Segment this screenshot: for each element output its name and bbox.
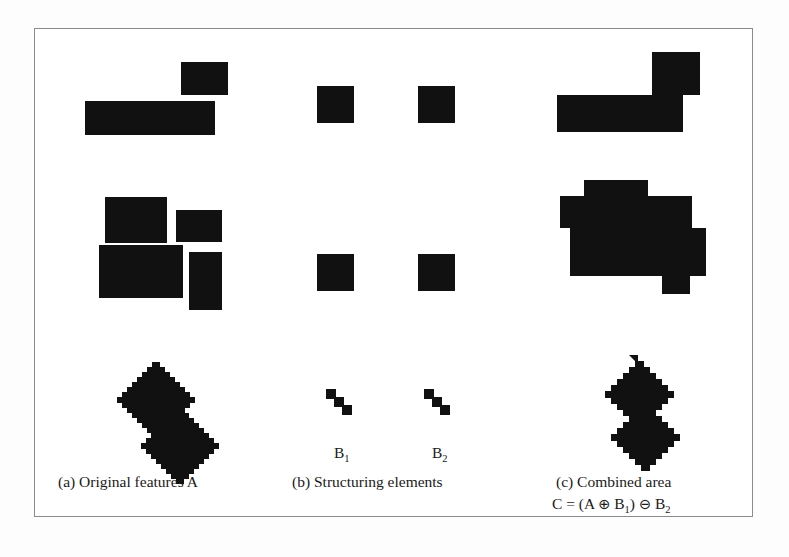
caption-panel-c-formula: C = (A ⊕ B1) ⊖ B2 <box>552 494 671 516</box>
formula-mid: B <box>610 495 624 512</box>
formula-b2-subscript: 2 <box>665 504 670 515</box>
panel-b-shapes <box>317 86 455 415</box>
figure-container: B1 B2 (a) Original features A (b) Struct… <box>0 0 789 557</box>
combined-L-shape <box>557 52 700 132</box>
feature-rect-mid-4 <box>189 252 222 310</box>
feature-rect-mid-1 <box>105 197 167 243</box>
formula-prefix: C = (A <box>552 495 598 512</box>
panel-c-shapes <box>557 52 706 471</box>
se-square-top-left <box>317 86 354 123</box>
feature-rect-top-small <box>181 62 228 95</box>
feature-rect-top-wide <box>85 101 215 135</box>
label-b2: B2 <box>432 444 448 464</box>
caption-panel-b: (b) Structuring elements <box>292 472 443 491</box>
label-b1-text: B <box>334 444 344 461</box>
combined-blob-shape <box>560 180 706 294</box>
se-square-mid-left <box>317 254 354 291</box>
dilation-symbol: ⊕ <box>598 496 610 512</box>
label-b2-text: B <box>432 444 442 461</box>
label-b1: B1 <box>334 444 350 464</box>
se-square-top-right <box>418 86 455 123</box>
se-diagonal-b2 <box>424 389 450 415</box>
se-square-mid-right <box>418 254 455 291</box>
se-diagonal-b1 <box>326 389 352 415</box>
label-b1-subscript: 1 <box>344 453 349 464</box>
panel-a-shapes <box>85 62 228 484</box>
formula-end: B <box>651 495 665 512</box>
label-b2-subscript: 2 <box>442 453 447 464</box>
formula-close: ) <box>630 495 639 512</box>
feature-rect-mid-3 <box>99 245 183 298</box>
erosion-symbol: ⊖ <box>639 496 651 512</box>
caption-panel-a: (a) Original features A <box>58 472 198 491</box>
caption-panel-c: (c) Combined area <box>556 472 671 491</box>
feature-rect-mid-2 <box>176 210 222 242</box>
combined-s-shape <box>605 355 680 471</box>
